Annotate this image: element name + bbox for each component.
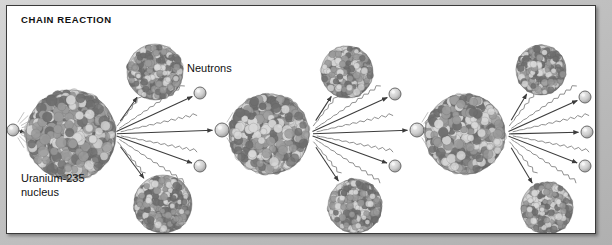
diagram-panel: CHAIN REACTION Neutrons Uranium-235 nucl… — [6, 5, 596, 234]
uranium-nucleus-label: Uranium-235 nucleus — [21, 172, 85, 199]
gamma-ray-wave — [511, 139, 576, 183]
neutron — [579, 91, 591, 103]
neutron — [7, 124, 19, 136]
uranium-235-nucleus — [424, 93, 506, 175]
diagram-canvas — [7, 6, 595, 233]
gamma-ray-wave — [313, 142, 341, 173]
gamma-ray-wave — [317, 114, 393, 132]
page-title: CHAIN REACTION — [21, 14, 112, 25]
gamma-ray-wave — [121, 114, 197, 132]
neutrons-label: Neutrons — [187, 62, 232, 74]
neutron-arrow — [313, 130, 408, 134]
fission-fragment-nucleus — [327, 178, 382, 233]
fission-fragment-arrow — [511, 148, 532, 183]
impact-spark — [18, 112, 24, 122]
fission-fragment-nucleus — [320, 46, 374, 98]
neutron-arrow — [116, 97, 192, 132]
fission-fragment-arrow — [120, 97, 137, 121]
uranium-235-nucleus — [24, 89, 116, 182]
neutron — [581, 126, 593, 138]
gamma-ray-wave — [317, 136, 393, 152]
fission-fragment-nucleus — [516, 45, 566, 95]
neutron — [389, 160, 401, 172]
neutron — [410, 123, 424, 137]
neutron-arrow — [117, 136, 192, 163]
fission-fragment-nucleus — [133, 175, 192, 233]
gamma-ray-wave — [117, 142, 145, 173]
neutron-arrow — [509, 132, 579, 134]
nuclei-group — [24, 44, 573, 233]
neutron — [194, 160, 206, 172]
neutron-arrow — [509, 101, 578, 132]
gamma-ray-waves — [117, 86, 589, 184]
uranium-235-nucleus — [229, 93, 310, 175]
neutron — [215, 123, 229, 137]
gamma-ray-wave — [119, 139, 184, 183]
fission-fragment-nucleus — [126, 44, 183, 100]
neutron — [194, 87, 206, 99]
fission-fragment-nucleus — [521, 182, 573, 233]
neutron-arrow — [117, 130, 213, 134]
neutron — [389, 88, 401, 100]
gamma-ray-wave — [121, 136, 197, 152]
gamma-ray-wave — [513, 114, 589, 132]
neutron — [579, 160, 591, 172]
fission-fragment-arrow — [316, 96, 332, 120]
fission-fragment-arrow — [121, 147, 144, 179]
impact-spark — [18, 138, 24, 148]
figure-root: CHAIN REACTION Neutrons Uranium-235 nucl… — [0, 0, 612, 245]
gamma-ray-wave — [513, 136, 589, 152]
neutron-arrow — [313, 98, 388, 132]
